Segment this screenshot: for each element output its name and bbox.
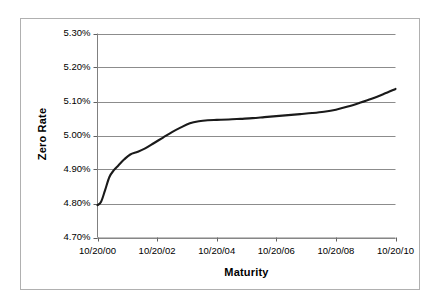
x-tick-label: 10/20/00 [69, 245, 127, 256]
zero-rate-chart: Zero Rate Maturity 5.30%5.20%5.10%5.00%4… [0, 0, 440, 306]
plot-area [0, 0, 440, 306]
y-tick-label: 4.90% [64, 163, 91, 174]
y-tick-label: 5.00% [64, 129, 91, 140]
x-tick-label: 10/20/08 [307, 245, 365, 256]
y-tick-label: 5.30% [64, 27, 91, 38]
y-tick-label: 5.20% [64, 61, 91, 72]
x-tick-label: 10/20/10 [367, 245, 425, 256]
y-tick-label: 4.70% [64, 231, 91, 242]
gridlines [98, 35, 396, 239]
y-tick-label: 5.10% [64, 95, 91, 106]
axis-ticks [94, 35, 397, 242]
y-tick-label: 4.80% [64, 197, 91, 208]
x-tick-label: 10/20/02 [128, 245, 186, 256]
x-tick-label: 10/20/04 [188, 245, 246, 256]
x-tick-label: 10/20/06 [247, 245, 305, 256]
x-axis-title: Maturity [187, 266, 307, 278]
y-axis-title: Zero Rate [36, 84, 48, 184]
zero-rate-curve [98, 89, 396, 205]
